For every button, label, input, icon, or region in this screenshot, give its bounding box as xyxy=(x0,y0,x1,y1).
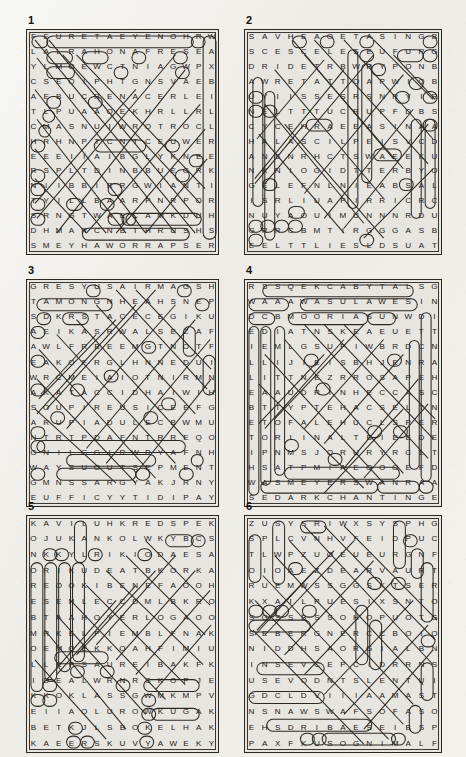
grid-row: GRESYUSAIRMAGSH xyxy=(27,280,218,295)
grid-letter: Y xyxy=(415,164,428,179)
grid-letter: R xyxy=(402,657,415,673)
grid-letter: L xyxy=(363,239,376,254)
grid-row: KAVILUHKREDSPEK xyxy=(27,516,218,532)
grid-letter: N xyxy=(129,579,142,595)
grid-letter: T xyxy=(363,164,376,179)
grid-letter: L xyxy=(141,325,154,340)
grid-letter: U xyxy=(40,491,53,506)
grid-row: SOUPIREUSICEEFG xyxy=(27,401,218,416)
grid-letter: A xyxy=(154,385,167,400)
grid-letter: I xyxy=(284,431,297,446)
grid-letter: R xyxy=(141,239,154,254)
grid-letter: N xyxy=(402,30,415,45)
grid-letter: E xyxy=(415,416,428,431)
grid-letter: E xyxy=(336,30,349,45)
grid-letter: S xyxy=(310,610,323,626)
puzzle-grid-4[interactable]: RSSQEKCABYTALSGWAAAWASULAWESINDCBMOORIAS… xyxy=(244,279,442,507)
grid-row: AWLFRBEEMGTNOTF xyxy=(27,340,218,355)
grid-letter: A xyxy=(103,370,116,385)
grid-letter: R xyxy=(271,75,284,90)
grid-letter: O xyxy=(245,563,258,579)
grid-letter: I xyxy=(336,689,349,705)
grid-letter: K xyxy=(154,705,167,721)
grid-letter: A xyxy=(363,325,376,340)
grid-letter: O xyxy=(297,310,310,325)
grid-letter: U xyxy=(258,516,271,532)
puzzle-grid-3[interactable]: GRESYUSAIRMAGSHTAMONGNHEAHSNEPSDKRSTACEC… xyxy=(26,279,219,507)
grid-letter: O xyxy=(415,75,428,90)
letter-grid-1: FEURETAEYENOHRWLALRAHONAFRESEAYLMOEWCTNI… xyxy=(27,30,218,254)
grid-letter: E xyxy=(40,149,53,164)
grid-letter: U xyxy=(52,401,65,416)
grid-letter: K xyxy=(205,516,218,532)
grid-letter: S xyxy=(363,705,376,721)
puzzle-grid-6[interactable]: ZUSYSRIWXSYSPHGSPLCVNHVFEIDPUCTLWPZUOEUE… xyxy=(244,515,442,753)
grid-letter: E xyxy=(258,340,271,355)
grid-letter: T xyxy=(129,563,142,579)
grid-letter: U xyxy=(376,45,389,60)
grid-letter: L xyxy=(271,239,284,254)
grid-letter: E xyxy=(271,45,284,60)
grid-letter: S xyxy=(310,579,323,595)
grid-letter: R xyxy=(91,355,104,370)
grid-letter: L xyxy=(323,179,336,194)
grid-letter: S xyxy=(350,673,363,689)
grid-letter: N xyxy=(284,149,297,164)
grid-letter: C xyxy=(52,370,65,385)
grid-letter: Y xyxy=(103,491,116,506)
grid-letter: P xyxy=(65,416,78,431)
grid-letter: G xyxy=(428,516,441,532)
grid-letter: U xyxy=(78,563,91,579)
grid-letter: P xyxy=(284,547,297,563)
grid-letter: M xyxy=(129,340,142,355)
grid-letter: B xyxy=(297,224,310,239)
grid-letter: G xyxy=(129,149,142,164)
grid-letter: P xyxy=(245,736,258,752)
grid-letter: B xyxy=(350,355,363,370)
grid-letter: B xyxy=(141,164,154,179)
puzzle-number-4: 4 xyxy=(246,264,442,276)
grid-letter: O xyxy=(192,610,205,626)
grid-letter: U xyxy=(103,657,116,673)
grid-letter: J xyxy=(284,355,297,370)
grid-letter: R xyxy=(40,370,53,385)
puzzle-grid-1[interactable]: FEURETAEYENOHRWLALRAHONAFRESEAYLMOEWCTNI… xyxy=(26,29,219,255)
grid-letter: R xyxy=(192,105,205,120)
grid-letter: F xyxy=(192,401,205,416)
grid-letter: E xyxy=(205,673,218,689)
grid-letter: N xyxy=(402,120,415,135)
grid-letter: U xyxy=(65,105,78,120)
grid-letter: H xyxy=(205,209,218,224)
letter-grid-6: ZUSYSRIWXSYSPHGSPLCVNHVFEIDPUCTLWPZUOEUE… xyxy=(245,516,441,752)
grid-letter: I xyxy=(376,532,389,548)
grid-letter: S xyxy=(258,673,271,689)
grid-letter: G xyxy=(180,705,193,721)
grid-row: HSATPMIAEOOOEFD xyxy=(245,461,441,476)
grid-letter: E xyxy=(245,325,258,340)
grid-letter: S xyxy=(350,45,363,60)
grid-row: AKATACCIDHAIWIH xyxy=(27,385,218,400)
grid-letter: E xyxy=(415,579,428,595)
grid-letter: F xyxy=(116,431,129,446)
grid-letter: N xyxy=(245,164,258,179)
grid-letter: N xyxy=(192,446,205,461)
grid-letter: R xyxy=(103,476,116,491)
puzzle-grid-2[interactable]: SAVHEAOETASINGBSCESCELESEUFURGDRIDETRBWR… xyxy=(244,29,442,255)
puzzle-grid-5[interactable]: KAVILUHKREDSPEKOJUKANKOLWKYBCSNKKYLRIKIO… xyxy=(26,515,219,753)
grid-letter: R xyxy=(129,610,142,626)
grid-letter: U xyxy=(78,461,91,476)
grid-letter: J xyxy=(167,476,180,491)
grid-letter: F xyxy=(350,705,363,721)
grid-letter: Y xyxy=(284,516,297,532)
grid-letter: R xyxy=(103,325,116,340)
grid-row: TLPUAAOEKHRLLRL xyxy=(27,105,218,120)
grid-row: ARUPIADULECBWMU xyxy=(27,416,218,431)
grid-letter: S xyxy=(297,446,310,461)
grid-row: IPNMSJORURYRCLT xyxy=(245,446,441,461)
grid-letter: W xyxy=(141,179,154,194)
grid-letter: E xyxy=(245,385,258,400)
grid-letter: I xyxy=(103,164,116,179)
grid-letter: M xyxy=(389,736,402,752)
grid-letter: S xyxy=(310,705,323,721)
grid-letter: P xyxy=(91,626,104,642)
